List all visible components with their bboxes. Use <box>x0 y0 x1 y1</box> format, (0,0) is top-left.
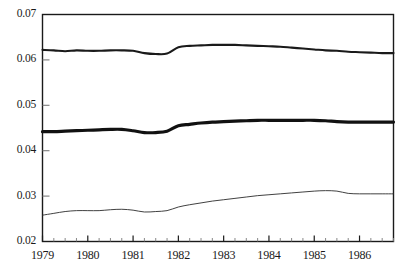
x-axis-tick-label: 1981 <box>110 248 156 263</box>
x-axis-tick-label: 1983 <box>201 248 247 263</box>
y-axis-tick-label: 0.07 <box>2 7 36 19</box>
y-ticks <box>43 60 50 196</box>
y-axis-tick-label: 0.02 <box>2 234 36 246</box>
y-axis-tick-label: 0.05 <box>2 98 36 110</box>
line-chart-plot <box>0 0 402 274</box>
chart-container: 0.020.030.040.050.060.071979198019811982… <box>0 0 402 274</box>
series-lower-line <box>43 191 394 216</box>
series-middle-line <box>43 120 394 132</box>
x-axis-tick-label: 1979 <box>20 248 66 263</box>
y-axis-tick-label: 0.06 <box>2 52 36 64</box>
x-axis-tick-label: 1984 <box>246 248 292 263</box>
y-axis-tick-label: 0.03 <box>2 189 36 201</box>
plot-frame <box>43 15 394 242</box>
y-axis-tick-label: 0.04 <box>2 143 36 155</box>
x-axis-tick-label: 1986 <box>337 248 383 263</box>
x-axis-tick-label: 1982 <box>155 248 201 263</box>
series-upper-line <box>43 45 394 54</box>
x-axis-tick-label: 1980 <box>65 248 111 263</box>
x-axis-tick-label: 1985 <box>291 248 337 263</box>
